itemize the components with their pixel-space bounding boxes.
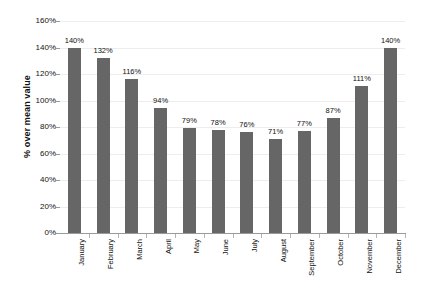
y-axis-tick-label: 80% [26,123,56,131]
bar-value-label: 76% [234,121,260,129]
y-axis-tick-label: 120% [26,70,56,78]
y-axis-tick-mark [56,233,60,234]
x-axis-label-september: September [308,239,316,276]
x-axis-tick-mark [348,234,349,238]
y-axis-tick-labels: 0%20%40%60%80%100%120%140%160% [26,0,56,297]
bar-june[interactable] [212,130,225,233]
x-axis-label-may: May [193,239,201,253]
bar-april[interactable] [154,108,167,233]
y-axis-tick-label: 20% [26,203,56,211]
bar-value-label: 116% [119,68,145,76]
gridline [60,180,405,181]
x-axis-label-july: July [251,239,259,252]
y-axis-tick-mark [56,154,60,155]
bar-value-label: 140% [61,37,87,45]
y-axis-tick-label: 140% [26,44,56,52]
bar-november[interactable] [355,86,368,233]
bar-may[interactable] [183,128,196,233]
x-axis-label-january: January [78,239,86,266]
x-axis-label-october: October [337,239,345,266]
gridline [60,101,405,102]
bar-october[interactable] [327,118,340,233]
bar-january[interactable] [68,48,81,234]
y-axis-tick-mark [56,127,60,128]
bar-value-label: 132% [90,47,116,55]
x-axis-label-december: December [395,239,403,274]
y-axis-tick-mark [56,74,60,75]
y-axis-tick-mark [56,48,60,49]
x-axis-label-august: August [280,239,288,262]
x-axis-tick-mark [261,234,262,238]
x-axis-label-february: February [107,239,115,269]
x-axis-tick-mark [118,234,119,238]
bar-chart: % over mean value 0%20%40%60%80%100%120%… [0,0,424,297]
y-axis-tick-mark [56,207,60,208]
y-axis-tick-mark [56,180,60,181]
bar-august[interactable] [269,139,282,233]
y-axis-tick-label: 40% [26,176,56,184]
x-axis-tick-mark [89,234,90,238]
x-axis-tick-mark [405,234,406,238]
y-axis-tick-mark [56,21,60,22]
bar-march[interactable] [125,79,138,233]
x-axis-tick-mark [146,234,147,238]
x-axis-tick-mark [175,234,176,238]
bar-value-label: 94% [148,97,174,105]
bar-december[interactable] [384,48,397,234]
bar-september[interactable] [298,131,311,233]
gridline [60,127,405,128]
x-axis-label-june: June [222,239,230,255]
bar-value-label: 87% [320,107,346,115]
x-axis-label-april: April [165,239,173,254]
bar-february[interactable] [97,58,110,233]
gridline [60,21,405,22]
x-axis-label-november: November [366,239,374,274]
x-axis-tick-mark [204,234,205,238]
x-axis-tick-mark [290,234,291,238]
y-axis-tick-label: 60% [26,150,56,158]
bar-value-label: 111% [349,75,375,83]
x-axis-tick-mark [376,234,377,238]
y-axis-tick-label: 160% [26,17,56,25]
x-axis-label-march: March [136,239,144,260]
bar-july[interactable] [240,132,253,233]
y-axis-tick-mark [56,101,60,102]
y-axis-tick-label: 100% [26,97,56,105]
bar-value-label: 71% [263,128,289,136]
gridline [60,207,405,208]
bar-value-label: 140% [378,37,404,45]
gridline [60,154,405,155]
bar-value-label: 77% [291,120,317,128]
x-axis-tick-mark [319,234,320,238]
bar-value-label: 78% [205,119,231,127]
y-axis-tick-label: 0% [26,229,56,237]
x-axis-tick-mark [233,234,234,238]
bar-value-label: 79% [176,117,202,125]
